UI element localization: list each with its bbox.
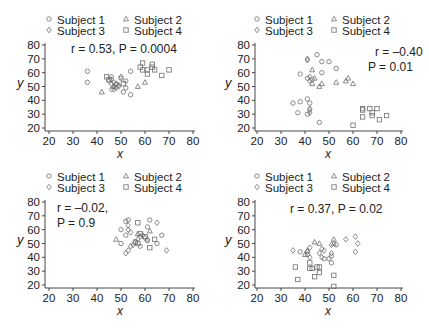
square-marker-icon xyxy=(145,68,149,72)
square-marker-icon xyxy=(296,277,300,281)
axes: 2030405060708020304050607080 xyxy=(27,196,199,304)
diamond-marker-icon xyxy=(164,248,168,254)
x-tick-label: 50 xyxy=(115,292,128,304)
circle-marker-icon xyxy=(155,241,159,245)
triangle-marker-icon xyxy=(143,80,148,85)
y-tick-label: 20 xyxy=(27,122,40,134)
scatter-plot-area: 2030405060708020304050607080 xyxy=(215,165,429,330)
x-tick-label: 70 xyxy=(163,292,176,304)
square-marker-icon xyxy=(317,270,321,274)
scatter-plot-area: 2030405060708020304050607080 xyxy=(215,0,429,165)
diamond-marker-icon xyxy=(128,230,132,236)
x-tick-label: 30 xyxy=(275,292,288,304)
diamond-marker-icon xyxy=(291,248,295,254)
square-marker-icon xyxy=(377,118,381,122)
scatter-panel-bottom-left: Subject 1 Subject 2 Subject 3 Subject 4 … xyxy=(0,165,214,330)
circle-marker-icon xyxy=(298,72,302,76)
y-tick-label: 50 xyxy=(237,81,250,93)
y-tick-label: 60 xyxy=(27,224,40,236)
scatter-plot-area: 2030405060708020304050607080 xyxy=(0,165,214,330)
x-tick-label: 60 xyxy=(139,135,152,147)
x-tick-label: 60 xyxy=(347,292,360,304)
circle-marker-icon xyxy=(119,227,123,231)
y-tick-label: 20 xyxy=(27,279,40,291)
circle-marker-icon xyxy=(308,101,312,105)
square-marker-icon xyxy=(370,111,374,115)
x-tick-label: 70 xyxy=(371,135,384,147)
circle-marker-icon xyxy=(85,80,89,84)
x-tick-label: 50 xyxy=(115,135,128,147)
circle-marker-icon xyxy=(121,90,125,94)
y-tick-label: 80 xyxy=(27,39,40,51)
circle-marker-icon xyxy=(119,241,123,245)
square-marker-icon xyxy=(360,115,364,119)
diamond-marker-icon xyxy=(353,249,357,255)
triangle-marker-icon xyxy=(351,81,356,86)
triangle-marker-icon xyxy=(334,80,339,85)
circle-marker-icon xyxy=(298,100,302,104)
x-tick-label: 20 xyxy=(251,292,264,304)
y-tick-label: 20 xyxy=(237,122,250,134)
x-tick-label: 70 xyxy=(371,292,384,304)
circle-marker-icon xyxy=(128,93,132,97)
square-marker-icon xyxy=(360,106,364,110)
square-marker-icon xyxy=(150,62,154,66)
triangle-marker-icon xyxy=(317,241,322,246)
square-marker-icon xyxy=(368,106,372,110)
x-tick-label: 30 xyxy=(275,135,288,147)
triangle-marker-icon xyxy=(317,84,322,89)
x-tick-label: 50 xyxy=(323,135,336,147)
y-tick-label: 60 xyxy=(237,224,250,236)
x-tick-label: 40 xyxy=(91,135,104,147)
x-tick-label: 70 xyxy=(163,135,176,147)
y-tick-label: 30 xyxy=(27,265,40,277)
x-tick-label: 30 xyxy=(67,292,80,304)
square-marker-icon xyxy=(136,221,140,225)
square-marker-icon xyxy=(121,82,125,86)
y-tick-label: 40 xyxy=(237,251,250,263)
circle-marker-icon xyxy=(317,120,321,124)
circle-marker-icon xyxy=(291,101,295,105)
series-subject-3 xyxy=(291,234,360,260)
series-subject-4 xyxy=(351,106,389,127)
x-tick-label: 60 xyxy=(347,135,360,147)
circle-marker-icon xyxy=(124,86,128,90)
square-marker-icon xyxy=(384,113,388,117)
x-tick-label: 80 xyxy=(395,292,408,304)
y-tick-label: 80 xyxy=(237,39,250,51)
square-marker-icon xyxy=(167,68,171,72)
x-tick-label: 40 xyxy=(299,292,312,304)
diamond-marker-icon xyxy=(124,250,128,256)
circle-marker-icon xyxy=(148,218,152,222)
square-marker-icon xyxy=(140,61,144,65)
y-tick-label: 80 xyxy=(27,196,40,208)
circle-marker-icon xyxy=(334,66,338,70)
square-marker-icon xyxy=(160,73,164,77)
axes: 2030405060708020304050607080 xyxy=(27,39,199,147)
triangle-marker-icon xyxy=(114,237,119,242)
y-tick-label: 50 xyxy=(27,238,40,250)
x-tick-label: 40 xyxy=(299,135,312,147)
circle-marker-icon xyxy=(145,225,149,229)
series-subject-1 xyxy=(119,218,164,249)
square-marker-icon xyxy=(148,245,152,249)
scatter-panel-top-left: Subject 1 Subject 2 Subject 3 Subject 4 … xyxy=(0,0,214,165)
x-tick-label: 80 xyxy=(395,135,408,147)
y-tick-label: 30 xyxy=(27,108,40,120)
y-tick-label: 40 xyxy=(27,251,40,263)
square-marker-icon xyxy=(332,273,336,277)
x-tick-label: 40 xyxy=(91,292,104,304)
circle-marker-icon xyxy=(329,261,333,265)
y-tick-label: 70 xyxy=(237,210,250,222)
x-tick-label: 80 xyxy=(187,292,200,304)
circle-marker-icon xyxy=(296,111,300,115)
series-subject-4 xyxy=(293,261,336,289)
y-tick-label: 30 xyxy=(237,265,250,277)
x-tick-label: 20 xyxy=(251,135,264,147)
circle-marker-icon xyxy=(315,52,319,56)
axes: 2030405060708020304050607080 xyxy=(237,39,407,147)
circle-marker-icon xyxy=(320,59,324,63)
triangle-marker-icon xyxy=(135,84,140,89)
y-tick-label: 40 xyxy=(27,94,40,106)
triangle-marker-icon xyxy=(310,67,315,72)
